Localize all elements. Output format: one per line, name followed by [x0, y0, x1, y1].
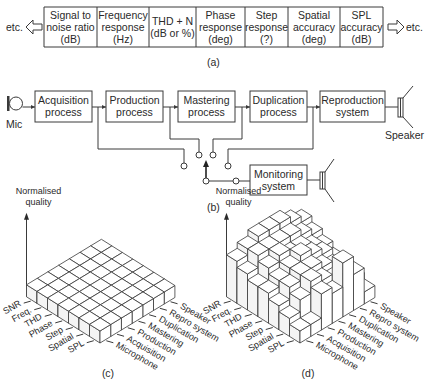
table-header-cell: accuracy [340, 21, 383, 33]
process-block-label: Mastering [183, 94, 229, 106]
chart-caption: (c) [102, 367, 114, 379]
chart-c-ideal-quality: NormalisedqualitySNRFreq.THDPhaseStepSpa… [1, 186, 221, 379]
table-header-cell: Signal to [50, 9, 91, 21]
process-block-label: Production [109, 94, 159, 106]
right-arrow-icon [388, 20, 404, 34]
table-column: SPLaccuracy(dB) [340, 9, 383, 45]
monitor-input-node [233, 178, 239, 184]
switch-contact-acquisition [181, 163, 187, 169]
table-header-cell: accuracy [293, 21, 336, 33]
speaker-label: Speaker [385, 129, 425, 141]
process-block-label: process [188, 106, 225, 118]
table-header-cell: Frequency [98, 9, 148, 21]
speaker-icon [398, 86, 413, 128]
process-block-label: process [45, 106, 82, 118]
process-block-label: Duplication [253, 94, 305, 106]
chart-d-actual-quality: NormalisedqualitySNRFreq.THDPhaseStepSpa… [201, 186, 421, 379]
process-block: Productionprocess [106, 91, 163, 122]
caption-a: (a) [207, 56, 220, 68]
table-column: THD + N(dB or %) [150, 15, 194, 39]
table-header-cell: (deg) [208, 33, 233, 45]
table-column: Stepresponse(?) [245, 9, 288, 45]
table-header-cell: Spatial [298, 9, 330, 21]
z-axis-arrow-icon [224, 213, 229, 220]
table-column: Frequencyresponse(Hz) [98, 9, 148, 45]
parameter-table: Signal tonoise ratio(dB)Frequencyrespons… [6, 7, 423, 68]
left-arrow-icon [26, 20, 42, 34]
figure: Signal tonoise ratio(dB)Frequencyrespons… [0, 0, 429, 384]
table-header-cell: (dB or %) [150, 27, 194, 39]
switch-contact-duplication [225, 163, 231, 169]
z-axis-label: quality [225, 197, 252, 207]
process-block: Duplicationprocess [250, 91, 307, 122]
process-block: Reproductionsystem [320, 91, 385, 122]
switch-contact-mastering [210, 152, 216, 158]
table-header-cell: response [199, 21, 242, 33]
mic-label: Mic [6, 118, 22, 130]
switch-contact-production [196, 152, 202, 158]
table-column: Spatialaccuracy(deg) [293, 9, 336, 45]
z-axis-label: Normalised [216, 186, 262, 196]
table-column: Phaseresponse(deg) [199, 9, 242, 45]
monitor-speaker-icon [320, 159, 334, 202]
switch-pivot [203, 178, 209, 184]
process-block-label: process [260, 106, 297, 118]
table-header-cell: THD + N [152, 15, 193, 27]
process-block-label: process [116, 106, 153, 118]
caption-b: (b) [207, 201, 220, 213]
table-header-cell: noise ratio [46, 21, 95, 33]
table-header-cell: (?) [260, 33, 273, 45]
chart-caption: (d) [302, 367, 315, 379]
process-block: Masteringprocess [178, 91, 235, 122]
z-axis-arrow-icon [24, 213, 29, 220]
process-block-label: Reproduction [321, 94, 384, 106]
monitoring-block-label: Monitoring [254, 168, 303, 180]
process-block-label: Acquisition [38, 94, 89, 106]
microphone-icon [7, 96, 23, 111]
right-etc-label: etc. [406, 21, 423, 33]
table-header-cell: Step [256, 9, 278, 21]
table-header-cell: (deg) [302, 33, 327, 45]
table-column: Signal tonoise ratio(dB) [46, 9, 95, 45]
monitoring-block-label: system [262, 180, 296, 192]
z-axis-label: quality [25, 197, 52, 207]
left-etc-label: etc. [6, 21, 23, 33]
table-header-cell: (dB) [61, 33, 81, 45]
z-axis-label: Normalised [16, 186, 62, 196]
table-header-cell: SPL [352, 9, 372, 21]
process-block-label: system [336, 106, 370, 118]
process-block: Acquisitionprocess [35, 91, 92, 122]
table-header-cell: response [101, 21, 144, 33]
table-header-cell: (dB) [352, 33, 372, 45]
table-header-cell: response [245, 21, 288, 33]
table-header-cell: (Hz) [113, 33, 133, 45]
table-header-cell: Phase [206, 9, 236, 21]
